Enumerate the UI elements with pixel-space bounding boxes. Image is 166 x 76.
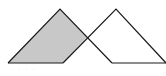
shaded-region [8, 9, 87, 63]
caption-text: · · · · [10, 66, 37, 72]
overlapping-triangles-diagram [0, 0, 166, 76]
